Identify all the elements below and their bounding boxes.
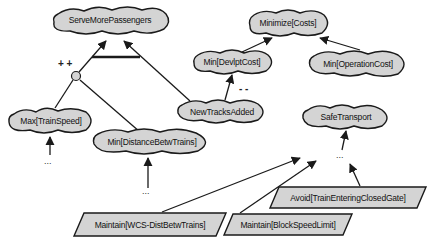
ellipsis-maxspeed: ... [44,156,52,166]
softgoal-label: Max[TrainSpeed] [20,116,81,126]
link-operation-to-mincosts [320,38,360,50]
contribution-plus-plus: + + [58,58,73,69]
softgoal-label: NewTracksAdded [190,107,254,117]
softgoal-min-distance-betw-trains[interactable]: Min[DistanceBetwTrains] [94,129,206,154]
goal-avoid-train-entering-closed-gate[interactable]: Avoid[TrainEnteringClosedGate] [270,187,426,208]
softgoal-label: ServeMorePassengers [69,15,152,25]
ellipsis-mindist: ... [142,186,150,196]
softgoal-max-train-speed[interactable]: Max[TrainSpeed] [9,108,91,133]
softgoal-label: Min[OperationCost] [323,59,393,69]
goal-label: Maintain[BlockSpeedLimit] [240,220,335,230]
goal-maintain-block-speed-limit[interactable]: Maintain[BlockSpeedLimit] [224,214,352,235]
softgoal-min-operation-cost[interactable]: Min[OperationCost] [310,51,405,76]
softgoal-new-tracks-added[interactable]: NewTracksAdded [178,100,263,123]
goal-maintain-wcs-dist-betw-trains[interactable]: Maintain[WCS-DistBetwTrains] [74,213,226,236]
softgoal-label: Minimize[Costs] [260,18,317,28]
softgoal-serve-more-passengers[interactable]: ServeMorePassengers [54,7,169,34]
softgoal-label: SafeTransport [321,112,373,122]
and-decomposition-node [72,72,81,81]
link-avoid-to-safe [350,164,360,186]
link-devlpt-to-mincosts [242,38,272,52]
softgoal-min-devlpt-cost[interactable]: Min[DevlptCost] [194,50,272,74]
link-maxspeed-to-and [55,80,73,108]
link-newtracks-to-devlpt [225,75,232,100]
softgoal-minimize-costs[interactable]: Minimize[Costs] [250,10,328,36]
ellipsis-safe: ... [336,150,344,160]
softgoal-label: Min[DevlptCost] [204,57,261,67]
goal-label: Maintain[WCS-DistBetwTrains] [95,220,206,230]
softgoal-label: Min[DistanceBetwTrains] [107,137,196,147]
goal-label: Avoid[TrainEnteringClosedGate] [290,193,405,203]
goal-model-diagram: + + - - ... ... ... ... ServeMorePasseng… [0,0,432,243]
link-into-safe [342,131,346,150]
softgoal-safe-transport[interactable]: SafeTransport [303,105,387,129]
contribution-minus-minus: - - [239,83,248,94]
link-newtracks-to-serve [124,41,190,101]
